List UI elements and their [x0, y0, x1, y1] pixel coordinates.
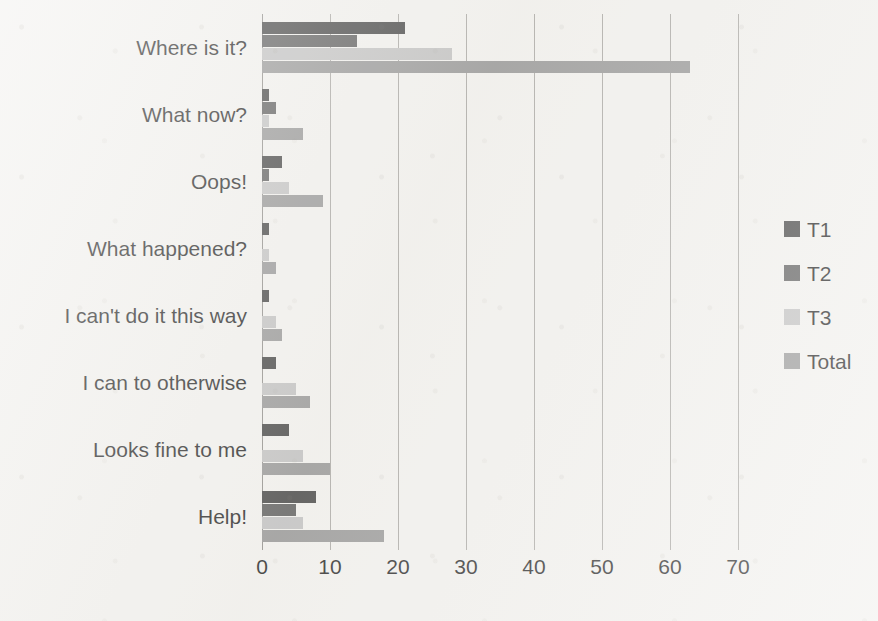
category-label: Oops! [0, 171, 247, 192]
bar [262, 357, 276, 369]
x-tick-label: 40 [504, 556, 564, 577]
legend-item[interactable]: T1 [784, 207, 851, 251]
legend-item[interactable]: Total [784, 339, 851, 383]
bar [262, 169, 269, 181]
bar [262, 61, 690, 73]
bar [262, 115, 269, 127]
bar [262, 223, 269, 235]
bar [262, 383, 296, 395]
x-tick-label: 50 [572, 556, 632, 577]
category-label: I can't do it this way [0, 305, 247, 326]
bar [262, 290, 269, 302]
legend-swatch-icon [784, 353, 800, 369]
gridline [738, 14, 739, 550]
plot-area [262, 14, 738, 550]
x-tick-label: 20 [368, 556, 428, 577]
legend-item[interactable]: T3 [784, 295, 851, 339]
legend-swatch-icon [784, 309, 800, 325]
legend-label: T1 [807, 219, 832, 240]
category-label: I can to otherwise [0, 372, 247, 393]
category-label: Where is it? [0, 37, 247, 58]
bar [262, 262, 276, 274]
bar-group [262, 215, 738, 282]
bar-group [262, 483, 738, 550]
bar-group [262, 282, 738, 349]
bar [262, 450, 303, 462]
x-tick-label: 60 [640, 556, 700, 577]
category-label: What now? [0, 104, 247, 125]
bar [262, 530, 384, 542]
bar-group [262, 148, 738, 215]
category-label: What happened? [0, 238, 247, 259]
x-tick-label: 0 [232, 556, 292, 577]
bar-group [262, 416, 738, 483]
category-label: Help! [0, 506, 247, 527]
x-tick-label: 10 [300, 556, 360, 577]
bar-group [262, 81, 738, 148]
legend-swatch-icon [784, 221, 800, 237]
legend-label: T3 [807, 307, 832, 328]
bar [262, 463, 330, 475]
x-tick-label: 70 [708, 556, 768, 577]
legend-item[interactable]: T2 [784, 251, 851, 295]
bar-group [262, 349, 738, 416]
bar [262, 128, 303, 140]
bar [262, 504, 296, 516]
bar [262, 424, 289, 436]
legend-label: T2 [807, 263, 832, 284]
bar [262, 156, 282, 168]
bar-chart: Where is it?What now?Oops!What happened?… [0, 0, 878, 621]
bar [262, 316, 276, 328]
bar [262, 102, 276, 114]
bar-group [262, 14, 738, 81]
bar [262, 396, 310, 408]
bar [262, 195, 323, 207]
bar [262, 22, 405, 34]
category-label: Looks fine to me [0, 439, 247, 460]
bar [262, 182, 289, 194]
x-tick-label: 30 [436, 556, 496, 577]
chart-legend: T1T2T3Total [784, 207, 851, 383]
bar [262, 89, 269, 101]
legend-swatch-icon [784, 265, 800, 281]
legend-label: Total [807, 351, 851, 372]
bar [262, 491, 316, 503]
bar [262, 517, 303, 529]
bar [262, 35, 357, 47]
bar [262, 329, 282, 341]
bar [262, 48, 452, 60]
bar [262, 249, 269, 261]
